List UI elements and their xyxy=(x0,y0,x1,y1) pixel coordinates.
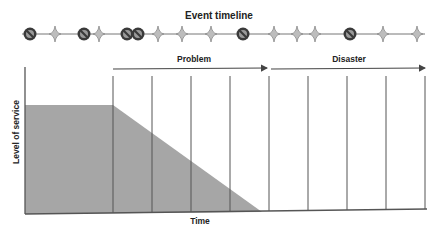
phase-arrow-disaster xyxy=(271,68,425,69)
star-event-icon xyxy=(93,26,105,42)
phase-arrow-problem xyxy=(113,68,267,69)
level-of-service-area xyxy=(25,105,262,214)
star-event-icon xyxy=(411,26,423,42)
x-axis-label: Time xyxy=(190,216,210,226)
star-event-icon xyxy=(49,26,61,42)
prohibition-icon xyxy=(24,28,37,41)
event-timeline-diagram: Event timeline ProblemDisaster Level of … xyxy=(0,0,439,231)
timeline-title: Event timeline xyxy=(185,10,253,21)
phase-label-problem: Problem xyxy=(177,54,211,64)
prohibition-icon xyxy=(237,28,250,41)
prohibition-icon xyxy=(344,28,357,41)
star-event-icon xyxy=(152,26,164,42)
star-event-icon xyxy=(268,26,280,42)
star-event-icon xyxy=(291,26,303,42)
prohibition-icon xyxy=(78,28,91,41)
y-axis-label: Level of service xyxy=(11,100,21,164)
phase-label-disaster: Disaster xyxy=(332,54,366,64)
star-event-icon xyxy=(205,26,217,42)
star-event-icon xyxy=(176,26,188,42)
phase-arrows: ProblemDisaster xyxy=(113,54,425,69)
prohibition-icon xyxy=(132,28,145,41)
star-event-icon xyxy=(377,26,389,42)
star-event-icon xyxy=(309,26,321,42)
